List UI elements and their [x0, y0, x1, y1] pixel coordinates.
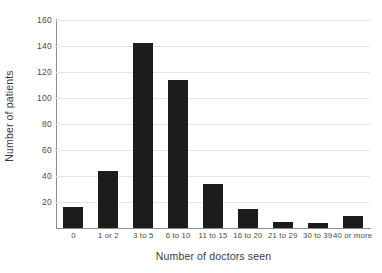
bar — [203, 184, 223, 228]
bar — [273, 222, 293, 229]
x-tick-label: 6 to 10 — [166, 231, 191, 240]
x-tick-label: 1 or 2 — [98, 231, 119, 240]
y-tick-label: 160 — [6, 15, 52, 25]
x-tick-label: 11 to 15 — [199, 231, 228, 240]
bar — [63, 207, 83, 228]
bar — [238, 209, 258, 229]
bar — [308, 223, 328, 228]
y-tick-label: 140 — [6, 41, 52, 51]
bars-group — [56, 20, 370, 228]
x-axis-line — [56, 228, 371, 229]
x-tick-label: 30 to 39 — [303, 231, 332, 240]
x-tick-label: 0 — [71, 231, 76, 240]
x-tick-label: 21 to 29 — [268, 231, 297, 240]
bar-chart: Number of patients 20406080100120140160 … — [0, 0, 382, 273]
y-tick-label: 80 — [6, 119, 52, 129]
x-tick-label: 3 to 5 — [133, 231, 153, 240]
plot-area — [56, 20, 370, 228]
bar — [343, 216, 363, 228]
bar — [98, 171, 118, 228]
bar — [133, 43, 153, 228]
y-tick-label: 100 — [6, 93, 52, 103]
bar — [168, 80, 188, 228]
y-tick-label: 20 — [6, 197, 52, 207]
y-axis-tick-labels: 20406080100120140160 — [0, 20, 52, 228]
y-tick-label: 120 — [6, 67, 52, 77]
y-tick-label: 40 — [6, 171, 52, 181]
x-axis-tick-labels: 01 or 23 to 56 to 1011 to 1516 to 2021 t… — [56, 231, 371, 245]
y-tick-label: 60 — [6, 145, 52, 155]
x-axis-title: Number of doctors seen — [56, 250, 371, 262]
x-tick-label: 40 or more — [333, 231, 372, 240]
x-tick-label: 16 to 20 — [233, 231, 262, 240]
